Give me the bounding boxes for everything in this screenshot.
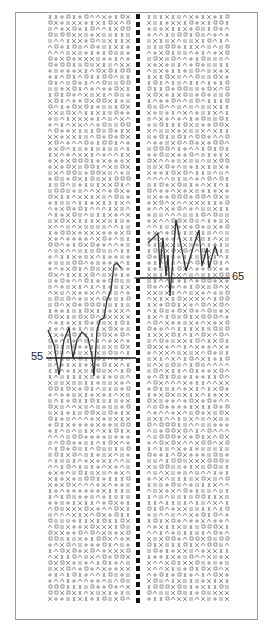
graph-line-right [148, 220, 218, 296]
graph-overlay [0, 0, 266, 633]
graph-line-left [48, 263, 121, 376]
baseline-label-right: 65 [232, 271, 244, 282]
baseline-label-left: 55 [31, 351, 43, 362]
